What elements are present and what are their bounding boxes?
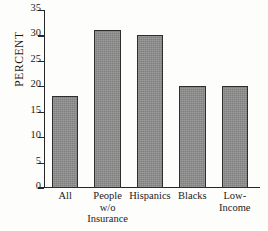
x-axis-category-label: Hispanics [129,190,171,202]
bar-slot [222,10,248,188]
x-axis-category-label: All [44,190,86,202]
bar[interactable] [52,96,78,188]
x-axis-category-labels: AllPeoplew/oInsuranceHispanicsBlacksLow-… [44,190,256,231]
y-tick-label: 5 [36,155,41,166]
bar[interactable] [179,86,205,188]
category-label-line: Insurance [86,213,128,225]
y-tick-label: 20 [31,78,42,89]
plot-area: 05101520253035 [44,10,256,188]
y-tick-label: 10 [31,129,42,140]
bar-series [44,10,256,188]
y-tick-label: 35 [31,2,42,13]
y-tick-label: 25 [31,53,42,64]
bar[interactable] [222,86,248,188]
y-tick-label: 15 [31,104,42,115]
bar-chart: PERCENT 05101520253035 AllPeoplew/oInsur… [0,0,268,231]
bar[interactable] [94,30,120,188]
x-axis-category-label: Peoplew/oInsurance [86,190,128,225]
x-axis-category-label: Low-Income [214,190,256,213]
category-label-line: All [44,190,86,202]
category-label-line: Hispanics [129,190,171,202]
y-tick-label: 30 [31,27,42,38]
y-axis-label: PERCENT [13,9,27,109]
bar-slot [179,10,205,188]
category-label-line: Income [214,202,256,214]
x-axis-category-label: Blacks [171,190,213,202]
bar-slot [52,10,78,188]
category-label-line: People [86,190,128,202]
bar[interactable] [137,35,163,188]
bar-slot [137,10,163,188]
y-tick-label: 0 [36,180,41,191]
category-label-line: Blacks [171,190,213,202]
category-label-line: Low- [214,190,256,202]
bar-slot [94,10,120,188]
category-label-line: w/o [86,202,128,214]
